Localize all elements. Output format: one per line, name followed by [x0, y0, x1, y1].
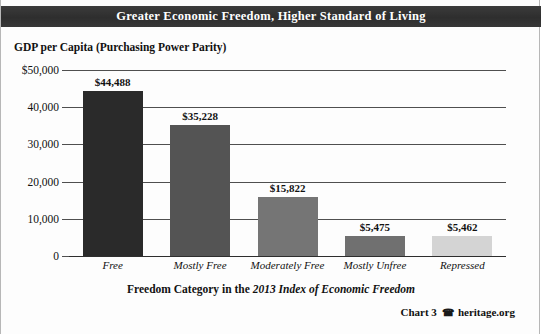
- x-axis-category-label: Moderately Free: [244, 259, 331, 271]
- x-axis-title-plain: Freedom Category in the: [127, 283, 253, 295]
- bar-moderately-free: [258, 197, 318, 256]
- x-axis-title: Freedom Category in the 2013 Index of Ec…: [1, 283, 541, 295]
- chart-footer: Chart 3 ☎ heritage.org: [401, 306, 515, 318]
- bar-value-label: $5,462: [447, 221, 477, 233]
- gridline: [69, 70, 506, 71]
- bar-repressed: [432, 236, 492, 256]
- gridline: [69, 256, 506, 257]
- bar-value-label: $5,475: [360, 221, 390, 233]
- y-axis-tick: [62, 256, 69, 257]
- plot-area: $50,00040,00030,00020,00010,0000$44,488F…: [69, 70, 506, 256]
- source-label: heritage.org: [458, 306, 515, 318]
- bar-mostly-unfree: [345, 236, 405, 256]
- chart-title-bar: Greater Economic Freedom, Higher Standar…: [1, 6, 541, 27]
- y-axis-tick-label: 10,000: [27, 213, 59, 225]
- bar-value-label: $44,488: [95, 76, 131, 88]
- y-axis-tick: [62, 70, 69, 71]
- y-axis-tick: [62, 107, 69, 108]
- y-axis-tick: [62, 219, 69, 220]
- page-title: Greater Economic Freedom, Higher Standar…: [116, 9, 425, 24]
- chart-number-label: Chart 3: [401, 306, 437, 318]
- y-axis-tick: [62, 144, 69, 145]
- y-axis-tick-label: 0: [53, 250, 59, 262]
- x-axis-category-label: Mostly Unfree: [331, 259, 418, 271]
- x-axis-title-italic: 2013 Index of Economic Freedom: [253, 283, 415, 295]
- y-axis-tick: [62, 182, 69, 183]
- y-axis-tick-label: $50,000: [22, 64, 59, 76]
- bar-mostly-free: [170, 125, 230, 256]
- x-axis-category-label: Mostly Free: [156, 259, 243, 271]
- telephone-icon: ☎: [442, 307, 453, 318]
- bar-free: [83, 91, 143, 256]
- y-axis-tick-label: 40,000: [27, 101, 59, 113]
- y-axis-tick-label: 30,000: [27, 138, 59, 150]
- y-axis-title: GDP per Capita (Purchasing Power Parity): [14, 41, 226, 53]
- x-axis-category-label: Free: [69, 259, 156, 271]
- y-axis-tick-label: 20,000: [27, 176, 59, 188]
- bar-value-label: $15,822: [270, 182, 306, 194]
- x-axis-category-label: Repressed: [419, 259, 506, 271]
- bar-value-label: $35,228: [182, 110, 218, 122]
